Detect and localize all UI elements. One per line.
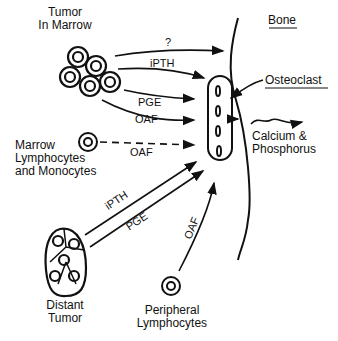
arrow-label-unknown: ? <box>165 36 171 48</box>
label-line: and Monocytes <box>15 165 96 178</box>
distant-tumor-icon <box>46 229 86 296</box>
peripheral-lymphocytes-label: Peripheral Lymphocytes <box>130 304 214 330</box>
distant-tumor-label: Distant Tumor <box>30 299 100 325</box>
arrow-label-pge-marrow: PGE <box>138 96 161 108</box>
label-line: Phosphorus <box>252 143 316 156</box>
label-line: Lymphocytes <box>130 317 214 330</box>
tumor-cells-icon <box>60 47 120 96</box>
peripheral-lymphocyte-icon <box>162 277 180 295</box>
arrow-calcium <box>251 119 302 124</box>
bone-label: Bone <box>268 14 296 27</box>
marrow-lymphocytes-label: Marrow Lymphocytes and Monocytes <box>15 139 96 178</box>
arrow-label-oaf-lymph: OAF <box>130 146 153 158</box>
arrow-unknown <box>115 50 223 56</box>
diagram: Tumor In Marrow Marrow Lymphocytes and M… <box>0 0 338 341</box>
osteoclast-icon <box>208 76 232 160</box>
bone-boundary <box>231 18 250 260</box>
calcium-phosphorus-label: Calcium & Phosphorus <box>252 130 316 156</box>
osteoclast-label: Osteoclast <box>265 74 322 87</box>
arrow-label-ipth-marrow: iPTH <box>150 57 174 69</box>
arrow-osteoclast <box>231 80 263 98</box>
arrow-ipth-marrow <box>118 68 204 78</box>
label-line: In Marrow <box>20 19 110 32</box>
label-line: Tumor <box>30 312 100 325</box>
arrow-oaf-lymph <box>100 142 194 145</box>
arrow-label-oaf-marrow: OAF <box>135 113 158 125</box>
tumor-in-marrow-label: Tumor In Marrow <box>20 6 110 32</box>
